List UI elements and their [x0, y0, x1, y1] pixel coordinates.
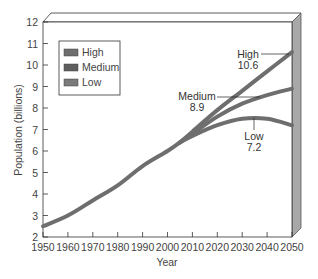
x-tick-label: 1990	[131, 241, 155, 253]
legend-label-low: Low	[82, 76, 102, 88]
svg-text:8.9: 8.9	[190, 101, 205, 113]
y-tick-label: 9	[32, 81, 38, 93]
y-tick-label: 12	[26, 16, 38, 28]
x-tick-label: 1960	[56, 241, 80, 253]
y-tick-label: 3	[32, 210, 38, 222]
x-tick-label: 1970	[81, 241, 105, 253]
y-tick-label: 11	[27, 38, 38, 50]
x-tick-label: 2040	[255, 241, 279, 253]
chart-top-bevel	[43, 13, 301, 22]
legend-swatch-high	[64, 49, 78, 56]
y-tick-label: 6	[32, 145, 38, 157]
population-chart: 23456789101112 1950196019701980199020002…	[0, 0, 318, 279]
x-tick-label: 2050	[280, 241, 304, 253]
legend-swatch-medium	[64, 64, 78, 71]
x-tick-label: 2020	[206, 241, 230, 253]
legend-label-medium: Medium	[82, 61, 120, 73]
x-tick-label: 1980	[106, 241, 130, 253]
y-tick-label: 10	[26, 59, 38, 71]
x-tick-label: 2000	[156, 241, 180, 253]
y-axis-title: Population (billions)	[12, 84, 24, 176]
x-axis-title: Year	[156, 256, 178, 268]
x-tick-label: 1950	[31, 241, 55, 253]
y-tick-label: 5	[32, 167, 38, 179]
y-tick-label: 4	[32, 188, 38, 200]
svg-text:10.6: 10.6	[238, 59, 259, 71]
legend-label-high: High	[82, 46, 104, 58]
x-tick-label: 2030	[231, 241, 255, 253]
svg-text:7.2: 7.2	[247, 141, 262, 153]
legend: High Medium Low	[59, 41, 120, 95]
y-tick-label: 8	[32, 102, 38, 114]
legend-swatch-low	[64, 79, 78, 86]
x-tick-label: 2010	[181, 241, 205, 253]
y-tick-label: 7	[32, 124, 38, 136]
